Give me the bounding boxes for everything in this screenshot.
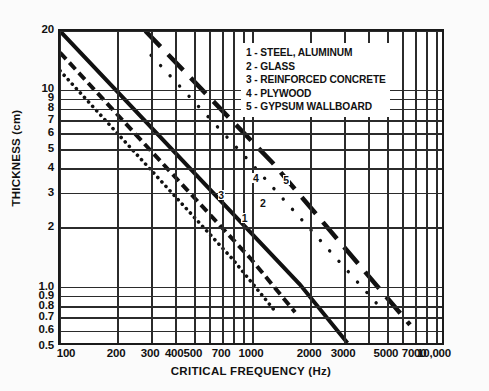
x-tick-label: 700 [212, 347, 231, 359]
y-tick-label: 7 [48, 113, 54, 125]
curve-label-1: 1 [241, 213, 248, 223]
legend-entry-1: 1 - STEEL, ALUMINUM [246, 46, 386, 60]
y-tick-label: 2 [48, 220, 54, 232]
x-tick-label: 300 [141, 347, 160, 359]
legend: 1 - STEEL, ALUMINUM2 - GLASS3 - REINFORC… [241, 43, 390, 117]
curve-label-4: 4 [252, 173, 259, 183]
legend-entry-4: 4 - PLYWOOD [246, 87, 386, 101]
y-tick-label: 0.7 [39, 310, 54, 322]
x-tick-label: 3000 [331, 347, 356, 359]
y-tick-label: 0.6 [39, 323, 54, 335]
x-tick-label: 5000 [373, 347, 398, 359]
horizontal-gridline [60, 168, 442, 170]
horizontal-gridline [60, 227, 442, 229]
horizontal-gridline [60, 287, 442, 289]
legend-entry-3: 3 - REINFORCED CONCRETE [246, 73, 386, 87]
legend-entry-2: 2 - GLASS [246, 60, 386, 74]
y-axis-tick-labels: 0.50.60.70.80.91.0234567891020 [0, 29, 56, 345]
horizontal-gridline [60, 30, 442, 32]
x-axis-tick-labels: 1002003004005007001000200030005000700010… [58, 347, 444, 363]
x-tick-label: 10,000 [417, 347, 451, 359]
x-tick-label: 100 [57, 347, 76, 359]
curve-label-5: 5 [283, 175, 290, 185]
y-tick-label: 4 [48, 161, 54, 173]
x-tick-label: 1000 [239, 347, 264, 359]
chart-root: THICKNESS (cm) 0.50.60.70.80.91.02345678… [0, 0, 489, 391]
horizontal-gridline [60, 120, 442, 122]
y-tick-label: 6 [48, 126, 54, 138]
x-tick-label: 500 [184, 347, 203, 359]
y-tick-label: 10 [42, 82, 54, 94]
y-tick-label: 5 [48, 142, 54, 154]
y-tick-label: 1.0 [39, 280, 54, 292]
curve-label-3: 3 [218, 190, 225, 200]
x-tick-label: 2000 [297, 347, 322, 359]
horizontal-gridline [60, 133, 442, 135]
legend-entry-5: 5 - GYPSUM WALLBOARD [246, 100, 386, 114]
horizontal-gridline [60, 193, 442, 195]
horizontal-gridline [60, 317, 442, 319]
y-tick-label: 0.5 [39, 339, 54, 351]
horizontal-gridline [60, 296, 442, 298]
horizontal-gridline [60, 149, 442, 151]
horizontal-gridline [60, 331, 442, 333]
x-tick-label: 400 [165, 347, 184, 359]
curve-label-2: 2 [259, 198, 266, 208]
horizontal-gridline [60, 306, 442, 308]
y-tick-label: 3 [48, 186, 54, 198]
x-tick-label: 200 [107, 347, 126, 359]
x-axis-title: CRITICAL FREQUENCY (Hz) [58, 365, 444, 377]
y-tick-label: 20 [42, 23, 54, 35]
